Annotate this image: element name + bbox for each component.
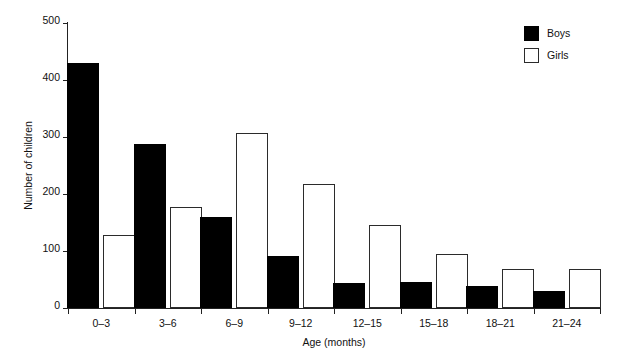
bar-boys-18-21 <box>466 286 498 308</box>
y-tick-label: 500 <box>42 15 60 26</box>
x-tick-mark <box>534 309 535 314</box>
x-tick-mark <box>68 309 69 314</box>
bar-boys-9-12 <box>267 256 299 308</box>
x-tick-mark <box>334 309 335 314</box>
x-tick-mark <box>401 309 402 314</box>
x-tick-label: 3–6 <box>159 318 177 329</box>
legend-item-girls: Girls <box>524 48 614 63</box>
bar-girls-0-3 <box>103 235 135 308</box>
x-tick-mark <box>600 309 601 314</box>
y-tick-label: 400 <box>42 72 60 83</box>
x-tick-mark <box>268 309 269 314</box>
bar-girls-9-12 <box>303 184 335 308</box>
y-tick-label: 0 <box>54 300 60 311</box>
bar-boys-0-3 <box>67 63 99 308</box>
x-tick-mark <box>467 309 468 314</box>
bar-girls-21-24 <box>569 269 601 308</box>
x-tick-label: 15–18 <box>419 318 448 329</box>
plot-area <box>68 23 600 308</box>
x-tick-label: 0–3 <box>92 318 110 329</box>
bar-girls-15-18 <box>436 254 468 308</box>
y-tick: 0 <box>0 308 68 309</box>
legend-label-girls: Girls <box>547 50 569 61</box>
y-tick-label: 200 <box>42 186 60 197</box>
legend-swatch-boys-icon <box>524 26 539 41</box>
y-axis-title: Number of children <box>22 23 36 308</box>
y-tick-label: 300 <box>42 129 60 140</box>
y-tick-label: 100 <box>42 243 60 254</box>
bar-boys-12-15 <box>333 283 365 308</box>
x-tick-mark <box>201 309 202 314</box>
chart-legend: Boys Girls <box>524 26 614 70</box>
bar-girls-18-21 <box>502 269 534 308</box>
bar-chart: 0100200300400500 0–33–66–99–1212–1515–18… <box>0 0 625 356</box>
bar-boys-15-18 <box>400 282 432 308</box>
bar-girls-6-9 <box>236 133 268 308</box>
legend-label-boys: Boys <box>547 28 570 39</box>
x-tick-label: 6–9 <box>225 318 243 329</box>
x-tick-label: 18–21 <box>486 318 515 329</box>
bar-boys-21-24 <box>533 291 565 308</box>
x-tick-label: 21–24 <box>552 318 581 329</box>
x-tick-label: 12–15 <box>353 318 382 329</box>
bar-girls-12-15 <box>369 225 401 308</box>
x-tick-label: 9–12 <box>289 318 312 329</box>
bar-boys-6-9 <box>200 217 232 308</box>
x-axis-title: Age (months) <box>68 336 600 348</box>
bar-girls-3-6 <box>170 207 202 308</box>
legend-item-boys: Boys <box>524 26 614 41</box>
legend-swatch-girls-icon <box>524 48 539 63</box>
bar-boys-3-6 <box>134 144 166 308</box>
x-tick-mark <box>135 309 136 314</box>
